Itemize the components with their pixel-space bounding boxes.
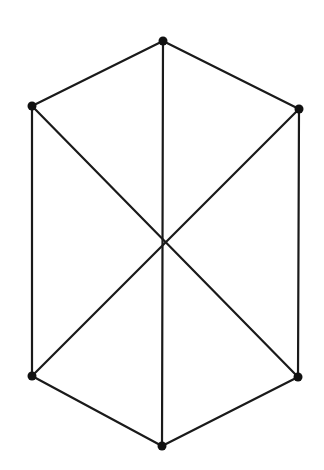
node-bottom <box>158 442 167 451</box>
node-top <box>159 37 168 46</box>
node-upper-right <box>295 105 304 114</box>
node-lower-right <box>294 373 303 382</box>
edge-lower-left-bottom <box>32 376 162 446</box>
graph-edges <box>32 41 299 446</box>
edge-top-upper-left <box>32 41 163 106</box>
edge-top-bottom <box>162 41 163 446</box>
edge-upper-right-lower-right <box>298 109 299 377</box>
graph-diagram <box>0 0 324 470</box>
node-upper-left <box>28 102 37 111</box>
edge-lower-right-bottom <box>162 377 298 446</box>
edge-top-upper-right <box>163 41 299 109</box>
node-lower-left <box>28 372 37 381</box>
